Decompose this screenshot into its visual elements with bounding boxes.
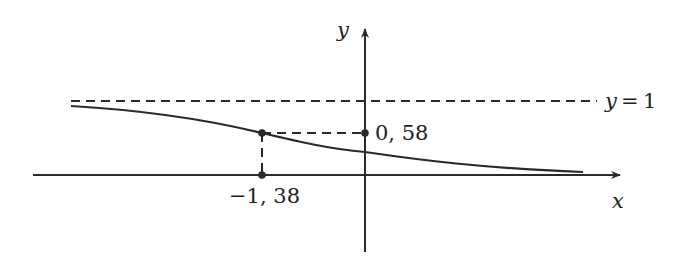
y-value-label: 0, 58 — [375, 121, 428, 145]
asymptote-label-var: y — [604, 89, 618, 113]
point-on-y-axis — [361, 129, 369, 137]
curve-line — [71, 106, 583, 172]
asymptote-label-value: 1 — [643, 89, 656, 113]
x-value-label: −1, 38 — [229, 184, 300, 208]
point-on-x-axis — [258, 171, 266, 179]
x-axis-label: x — [612, 189, 624, 213]
point-on-curve — [258, 129, 266, 137]
chart-canvas: y x y = 1 0, 58 −1, 38 — [0, 0, 687, 262]
y-axis-label: y — [336, 18, 350, 42]
asymptote-label-eq: = — [621, 89, 639, 113]
